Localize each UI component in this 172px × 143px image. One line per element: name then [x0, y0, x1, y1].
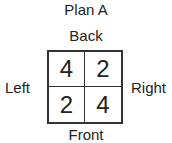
grid-cell-front-left: 2	[49, 87, 85, 122]
right-label: Right	[131, 80, 166, 95]
front-label: Front	[0, 127, 172, 142]
left-label: Left	[5, 80, 30, 95]
diagram-title: Plan A	[0, 2, 172, 17]
plan-grid: 4 2 2 4	[47, 50, 123, 124]
grid-cell-back-left: 4	[49, 52, 85, 87]
grid-cell-back-right: 2	[85, 52, 121, 87]
grid-cell-front-right: 4	[85, 87, 121, 122]
back-label: Back	[0, 28, 172, 43]
